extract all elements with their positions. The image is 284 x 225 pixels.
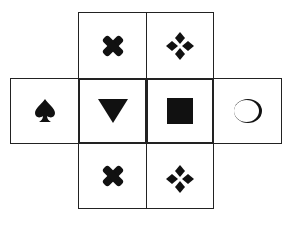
- crescent-circle-icon: [232, 97, 264, 125]
- filled-square-icon: [167, 98, 193, 124]
- cell-mid-3: [146, 78, 214, 144]
- cross-icon: [100, 33, 126, 59]
- four-diamonds-icon: [165, 164, 195, 194]
- cross-icon: [100, 163, 126, 189]
- cell-bottom-right: [146, 143, 214, 209]
- down-triangle-icon: [97, 98, 129, 124]
- cell-top-left: [78, 12, 147, 79]
- cell-mid-2: [78, 78, 147, 144]
- cell-mid-4: [213, 78, 282, 144]
- four-diamonds-icon: [165, 31, 195, 61]
- cell-mid-1: [10, 78, 79, 144]
- cell-bottom-left: [78, 143, 147, 209]
- cell-top-right: [146, 12, 214, 79]
- spade-icon: [34, 98, 56, 124]
